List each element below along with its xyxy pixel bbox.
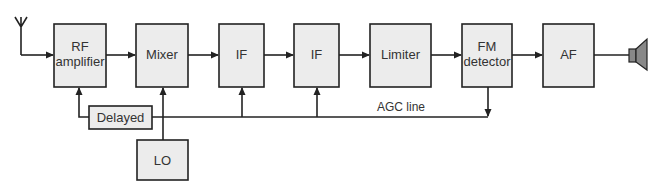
af-label: AF	[560, 47, 577, 62]
delayed-label: Delayed	[97, 110, 145, 125]
rf-amplifier-block: RF amplifier	[54, 24, 106, 87]
if1-block: IF	[219, 24, 264, 87]
limiter-block: Limiter	[370, 24, 431, 87]
if2-block: IF	[294, 24, 339, 87]
if2-label: IF	[311, 47, 323, 62]
speaker-icon	[629, 39, 647, 70]
fm-detector-block: FM detector	[462, 24, 512, 87]
delayed-to-rf-wire	[79, 88, 89, 117]
fm-detector-label-line2: detector	[464, 54, 512, 69]
delayed-block: Delayed	[89, 106, 152, 129]
rf-amplifier-label-line2: amplifier	[55, 54, 105, 69]
agc-line-label: AGC line	[377, 100, 425, 114]
if1-label: IF	[236, 47, 248, 62]
limiter-label: Limiter	[381, 47, 421, 62]
lo-block: LO	[137, 140, 188, 180]
mixer-block: Mixer	[136, 24, 188, 87]
rf-amplifier-label-line1: RF	[71, 39, 88, 54]
antenna-icon	[15, 17, 27, 55]
fm-receiver-diagram: RF amplifier Mixer IF IF Limiter FM dete…	[0, 0, 666, 192]
af-block: AF	[543, 24, 594, 87]
fm-detector-label-line1: FM	[478, 39, 497, 54]
lo-label: LO	[154, 153, 171, 168]
mixer-label: Mixer	[146, 47, 178, 62]
